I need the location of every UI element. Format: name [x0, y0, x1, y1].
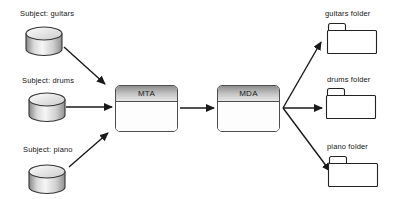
arrow-piano-to-mta — [69, 133, 108, 167]
folder-node-guitars — [326, 21, 378, 55]
subject-node-piano — [28, 164, 66, 195]
database-cylinder-icon — [28, 92, 66, 123]
folder-icon — [325, 86, 377, 120]
subject-node-drums — [28, 92, 66, 123]
database-cylinder-icon — [25, 26, 63, 57]
subject-label-guitars: Subject: guitars — [20, 9, 74, 18]
mta-body — [116, 102, 177, 132]
subject-node-guitars — [25, 26, 63, 57]
mta-header: MTA — [116, 86, 177, 102]
folder-icon — [326, 21, 378, 55]
mda-body — [218, 102, 279, 132]
subject-label-piano: Subject: piano — [23, 145, 73, 154]
folder-icon — [327, 154, 379, 188]
diagram-canvas: Subject: guitars Subject: drums Subject:… — [0, 0, 396, 199]
database-cylinder-icon — [28, 164, 66, 195]
folder-label-piano: piano folder — [327, 142, 368, 151]
folder-label-drums: drums folder — [327, 75, 370, 84]
arrow-mda-to-guitars-folder — [283, 42, 321, 108]
mda-label: MDA — [239, 89, 258, 98]
arrow-mda-to-piano-folder — [283, 108, 330, 171]
subject-label-drums: Subject: drums — [22, 76, 74, 85]
mda-node: MDA — [217, 85, 280, 132]
folder-node-piano — [327, 154, 379, 188]
mda-header: MDA — [218, 86, 279, 102]
folder-label-guitars: guitars folder — [325, 9, 370, 18]
mta-label: MTA — [138, 89, 155, 98]
mta-node: MTA — [115, 85, 178, 132]
folder-node-drums — [325, 86, 377, 120]
